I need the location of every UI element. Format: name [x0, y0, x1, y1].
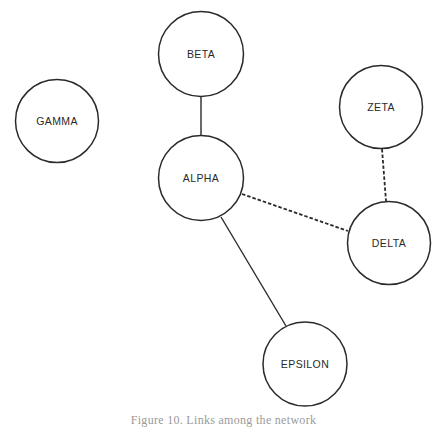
node-gamma-label: GAMMA: [36, 115, 78, 127]
edge-alpha-epsilon: [221, 217, 286, 326]
node-zeta: ZETA: [340, 66, 423, 149]
node-zeta-label: ZETA: [367, 101, 395, 113]
node-alpha: ALPHA: [159, 136, 244, 221]
node-epsilon: EPSILON: [263, 322, 347, 406]
node-beta-label: BETA: [187, 48, 215, 60]
node-beta: BETA: [159, 12, 244, 97]
node-delta: DELTA: [348, 202, 431, 285]
node-epsilon-label: EPSILON: [281, 358, 329, 370]
node-alpha-label: ALPHA: [183, 172, 219, 184]
edge-zeta-delta: [382, 149, 386, 201]
node-gamma: GAMMA: [16, 80, 99, 163]
edge-alpha-delta: [242, 194, 348, 231]
node-delta-label: DELTA: [372, 237, 406, 249]
figure-caption: Figure 10. Links among the network: [0, 413, 447, 428]
